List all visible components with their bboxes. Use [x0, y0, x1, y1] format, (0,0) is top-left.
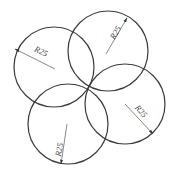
- circle-bottom: [28, 84, 108, 164]
- radius-label-top-left: R25: [32, 43, 50, 58]
- radius-label-right: R25: [132, 102, 149, 120]
- circle-right-group: R25: [85, 64, 165, 144]
- circle-top-left: [14, 27, 94, 107]
- circle-top-left-group: R25: [14, 27, 94, 107]
- circle-bottom-group: R25: [28, 84, 108, 164]
- diagram-canvas: R25 R25 R25 R25: [0, 0, 173, 173]
- circle-top-group: R25: [68, 11, 148, 91]
- radius-label-top: R25: [107, 24, 123, 42]
- radius-label-bottom: R25: [53, 142, 65, 158]
